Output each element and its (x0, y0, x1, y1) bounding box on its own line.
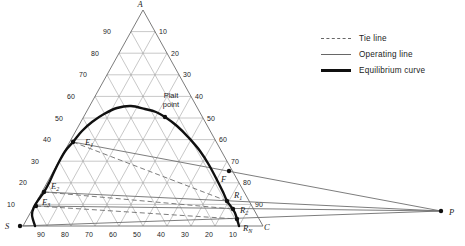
bottom-axis-tick-label: 20 (205, 231, 213, 238)
left-axis-tick-label: 10 (7, 201, 15, 208)
legend: Tie line Operating line Equilibrium curv… (321, 33, 425, 75)
point-label-E3: E3 (41, 197, 50, 208)
point-label-F: F (220, 174, 227, 184)
point-dot-R2 (231, 207, 235, 211)
right-axis-tick-label: 80 (243, 179, 251, 186)
right-axis-tick-label: 60 (219, 136, 227, 143)
point-dot-E3 (34, 204, 38, 208)
bottom-axis-tick-label: 10 (229, 231, 237, 238)
left-axis-tick-label: 50 (55, 115, 63, 122)
plait-point-annotation: point (163, 100, 180, 109)
left-axis-tick-label: 60 (67, 93, 75, 100)
bottom-axis-tick-label: 40 (157, 231, 165, 238)
left-axis-tick-label: 90 (103, 28, 111, 35)
right-axis-tick-label: 30 (183, 71, 191, 78)
operating-line-sample-icon (321, 54, 351, 55)
legend-row-operating-line: Operating line (321, 49, 425, 59)
right-axis-tick-label: 40 (195, 93, 203, 100)
left-axis-tick-label: 70 (79, 71, 87, 78)
bottom-axis-tick-label: 50 (133, 231, 141, 238)
point-label-A: A (136, 0, 143, 9)
right-axis-tick-label: 20 (171, 50, 179, 57)
tie-line (73, 142, 227, 201)
point-dot-plait (163, 115, 167, 119)
point-label-S: S (5, 221, 10, 231)
figure-container: 9080706050403020101020304050607080909080… (0, 0, 465, 246)
point-dot-RN (235, 217, 239, 221)
legend-row-equilibrium-curve: Equilibrium curve (321, 65, 425, 75)
point-dot-S (18, 224, 22, 228)
legend-label-equilibrium-curve: Equilibrium curve (359, 66, 425, 75)
point-label-C: C (264, 222, 270, 232)
left-axis-tick-label: 30 (31, 158, 39, 165)
right-axis-tick-label: 70 (231, 158, 239, 165)
point-label-E1: E1 (84, 137, 93, 148)
bottom-axis-tick-label: 60 (109, 231, 117, 238)
bottom-axis-tick-label: 30 (181, 231, 189, 238)
point-label-R1: R1 (233, 190, 242, 201)
bottom-axis-tick-label: 90 (37, 231, 45, 238)
left-axis-tick-label: 20 (19, 179, 27, 186)
point-dot-E1 (71, 140, 75, 144)
point-label-RN: RN (242, 223, 253, 234)
bottom-axis-tick-label: 70 (85, 231, 93, 238)
left-axis-tick-label: 80 (91, 50, 99, 57)
bottom-axis-tick-label: 80 (61, 231, 69, 238)
plait-point-annotation: Plait (164, 91, 180, 100)
point-dot-F (227, 169, 231, 173)
left-axis-tick-label: 40 (43, 136, 51, 143)
tie-line-sample-icon (321, 38, 351, 39)
point-dot-R1 (225, 199, 229, 203)
point-dot-P (439, 209, 443, 213)
legend-row-tie-line: Tie line (321, 33, 425, 43)
legend-label-tie-line: Tie line (359, 34, 387, 43)
legend-label-operating-line: Operating line (359, 50, 413, 59)
equilibrium-curve-sample-icon (321, 69, 351, 72)
right-axis-tick-label: 10 (159, 28, 167, 35)
point-label-R2: R2 (239, 205, 248, 216)
point-dot-E2 (42, 190, 46, 194)
point-label-P: P (448, 207, 454, 217)
right-axis-tick-label: 50 (207, 115, 215, 122)
